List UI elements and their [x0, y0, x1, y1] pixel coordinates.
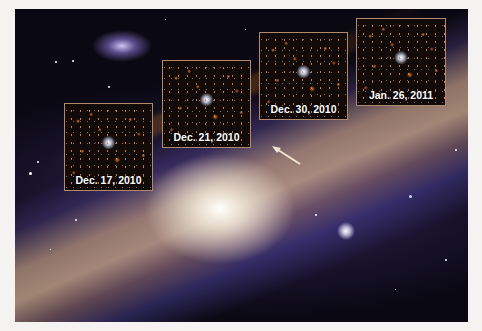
inset-dec-17-2010: Dec. 17, 2010 — [64, 103, 153, 191]
inset-date-label: Jan. 26, 2011 — [357, 89, 445, 101]
inset-dec-30-2010: Dec. 30, 2010 — [259, 32, 348, 120]
inset-jan-26-2011: Jan. 26, 2011 — [356, 18, 446, 106]
inset-date-label: Dec. 17, 2010 — [65, 174, 152, 186]
inset-dec-21-2010: Dec. 21, 2010 — [162, 60, 251, 148]
inset-date-label: Dec. 21, 2010 — [163, 131, 250, 143]
galaxy-photo: Dec. 17, 2010 Dec. 21, 2010 Dec. 30, 201… — [15, 9, 468, 322]
inset-date-label: Dec. 30, 2010 — [260, 103, 347, 115]
